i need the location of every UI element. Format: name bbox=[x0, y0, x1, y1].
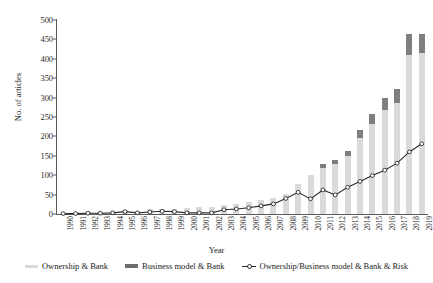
x-tick-label: 1999 bbox=[177, 216, 186, 231]
articles-by-year-chart: 050100150200250300350400450500 No. of ar… bbox=[0, 0, 433, 283]
x-tick-label: 2005 bbox=[252, 216, 261, 231]
line-marker bbox=[309, 197, 313, 201]
y-tick-label: 300 bbox=[41, 93, 53, 103]
x-tick-label: 2009 bbox=[301, 216, 310, 231]
line-marker bbox=[173, 210, 177, 214]
x-tick-label: 1993 bbox=[103, 216, 112, 231]
x-tick-label: 1998 bbox=[165, 216, 174, 231]
x-tick-label: 2003 bbox=[227, 216, 236, 231]
x-tick-label: 1994 bbox=[116, 216, 125, 231]
x-tick-label: 2004 bbox=[239, 216, 248, 231]
line-marker bbox=[160, 209, 164, 213]
legend-item-ownership-business-model-bank-risk: Ownership/Business model & Bank & Risk bbox=[242, 261, 409, 271]
line-marker bbox=[247, 206, 251, 210]
line-marker bbox=[296, 190, 300, 194]
x-tick-label: 1990 bbox=[66, 216, 75, 231]
x-tick-label: 1992 bbox=[91, 216, 100, 231]
line-marker bbox=[321, 188, 325, 192]
legend-label-ownership-bank: Ownership & Bank bbox=[42, 261, 108, 271]
x-tick-label: 1997 bbox=[153, 216, 162, 231]
y-tick-label: 150 bbox=[41, 151, 53, 161]
y-tick-label: 50 bbox=[45, 190, 53, 200]
line-marker bbox=[284, 197, 288, 201]
line-marker bbox=[420, 142, 424, 146]
x-tick-label: 2010 bbox=[314, 216, 323, 231]
y-tick-label: 500 bbox=[41, 15, 53, 25]
x-tick-label: 1996 bbox=[140, 216, 149, 231]
x-tick-label: 1991 bbox=[79, 216, 88, 231]
x-axis-tick-labels: 1990199119921993199419951996199719981999… bbox=[57, 215, 428, 245]
line-marker bbox=[234, 207, 238, 211]
y-axis-title: No. of articles bbox=[13, 52, 23, 142]
line-marker bbox=[395, 161, 399, 165]
y-tick-label: 100 bbox=[41, 170, 53, 180]
y-axis: 050100150200250300350400450500 bbox=[0, 0, 53, 283]
x-tick-label: 1995 bbox=[128, 216, 137, 231]
y-tick-label: 350 bbox=[41, 73, 53, 83]
x-tick-label: 2012 bbox=[338, 216, 347, 231]
x-tick-label: 2000 bbox=[190, 216, 199, 231]
x-tick-label: 2017 bbox=[400, 216, 409, 231]
x-tick-label: 2007 bbox=[276, 216, 285, 231]
x-tick-label: 2002 bbox=[215, 216, 224, 231]
legend-swatch-ownership-business-model-bank-risk bbox=[242, 265, 256, 268]
x-tick-label: 2015 bbox=[375, 216, 384, 231]
x-tick-label: 2016 bbox=[388, 216, 397, 231]
x-axis-title: Year bbox=[0, 245, 433, 255]
line-marker bbox=[148, 210, 152, 214]
x-tick-label: 2001 bbox=[202, 216, 211, 231]
legend-label-ownership-business-model-bank-risk: Ownership/Business model & Bank & Risk bbox=[260, 261, 409, 271]
y-tick-label: 250 bbox=[41, 112, 53, 122]
line-marker bbox=[408, 150, 412, 154]
x-tick-label: 2008 bbox=[289, 216, 298, 231]
line-marker bbox=[259, 204, 263, 208]
legend-item-ownership-bank: Ownership & Bank bbox=[25, 261, 108, 271]
legend-item-business-model-bank: Business model & Bank bbox=[125, 261, 224, 271]
line-marker bbox=[383, 168, 387, 172]
x-tick-label: 2019 bbox=[425, 216, 433, 231]
line-marker bbox=[346, 185, 350, 189]
line-series-layer bbox=[57, 20, 428, 214]
line-marker bbox=[123, 210, 127, 214]
line-marker bbox=[272, 202, 276, 206]
x-tick-label: 2014 bbox=[363, 216, 372, 231]
line-path bbox=[63, 144, 422, 214]
line-marker bbox=[358, 180, 362, 184]
x-tick-label: 2006 bbox=[264, 216, 273, 231]
legend-label-business-model-bank: Business model & Bank bbox=[142, 261, 224, 271]
x-tick-label: 2011 bbox=[326, 216, 335, 230]
x-tick-label: 2018 bbox=[412, 216, 421, 231]
chart-legend: Ownership & Bank Business model & Bank O… bbox=[0, 261, 433, 271]
x-tick-label: 2013 bbox=[351, 216, 360, 231]
line-marker bbox=[333, 193, 337, 197]
y-tick-label: 450 bbox=[41, 34, 53, 44]
legend-swatch-business-model-bank bbox=[125, 264, 138, 268]
line-marker bbox=[222, 208, 226, 212]
y-tick-label: 200 bbox=[41, 131, 53, 141]
legend-swatch-ownership-bank bbox=[25, 265, 38, 268]
y-tick-label: 400 bbox=[41, 54, 53, 64]
plot-area bbox=[57, 20, 428, 214]
line-marker bbox=[370, 174, 374, 178]
